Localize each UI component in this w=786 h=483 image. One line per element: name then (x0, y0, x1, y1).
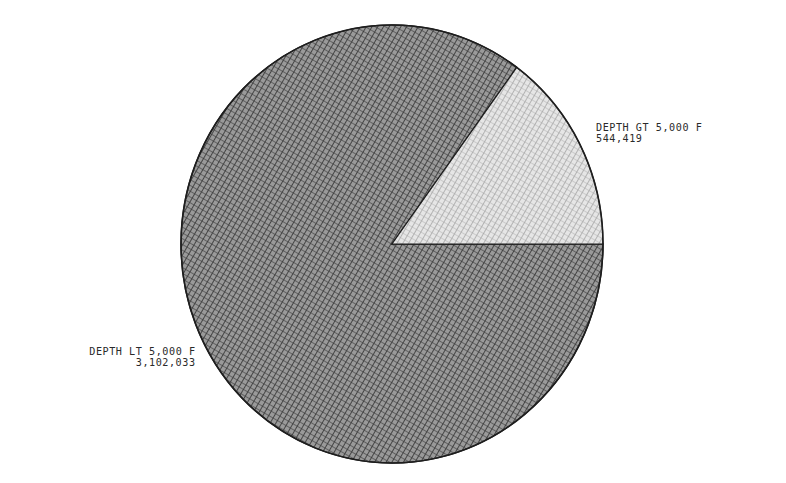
slice-label-depth-lt-5000: DEPTH LT 5,000 F 3,102,033 (90, 346, 196, 368)
pie-chart (0, 0, 786, 483)
slice-label-value: 544,419 (596, 133, 702, 144)
slice-label-depth-gt-5000: DEPTH GT 5,000 F 544,419 (596, 122, 702, 144)
slice-label-value: 3,102,033 (90, 357, 196, 368)
